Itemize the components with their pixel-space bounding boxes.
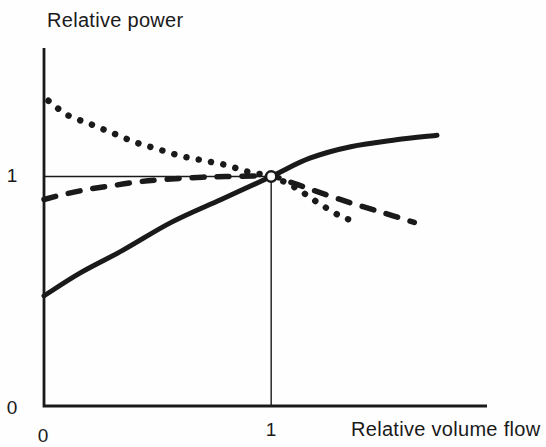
operating-point-marker — [266, 171, 276, 181]
axes — [44, 48, 487, 406]
series-dotted-curve — [49, 101, 358, 223]
series-solid-curve — [44, 135, 437, 296]
y-tick-label-0: 0 — [3, 398, 21, 418]
plot-svg — [0, 0, 546, 447]
x-axis-title: Relative volume flow — [351, 418, 540, 440]
y-tick-label-1: 1 — [3, 166, 21, 186]
x-tick-label-1: 1 — [261, 420, 281, 440]
series-dashed-curve — [44, 176, 414, 222]
y-axis-title: Relative power — [47, 9, 184, 31]
chart-figure: Relative power Relative volume flow 1 0 … — [0, 0, 546, 447]
x-tick-label-0: 0 — [33, 426, 53, 446]
